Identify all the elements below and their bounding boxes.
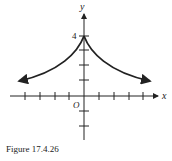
x-axis-label: x	[161, 90, 167, 101]
origin-label: O	[73, 100, 80, 110]
y-axis-label: y	[79, 1, 85, 12]
y-tick-label-4: 4	[72, 31, 77, 41]
graph: y x O 4	[0, 0, 172, 161]
curve	[84, 36, 150, 81]
curve	[19, 36, 84, 81]
figure-caption: Figure 17.4.26	[6, 144, 59, 154]
